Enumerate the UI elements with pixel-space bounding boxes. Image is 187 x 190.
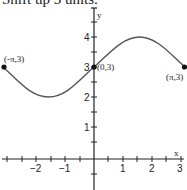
y-tick-2: 2 bbox=[84, 92, 90, 103]
x-tick-m1: −1 bbox=[59, 163, 71, 174]
x-tick-2: 2 bbox=[149, 163, 155, 174]
point-right bbox=[182, 64, 187, 69]
x-axis-label: x bbox=[174, 148, 179, 158]
point-mid-label: (0,3) bbox=[97, 62, 114, 72]
x-tick-m2: −2 bbox=[30, 163, 42, 174]
chart-plot: (-π,3) (0,3) (π,3) y x 4 3 2 1 −2 −1 1 2… bbox=[0, 0, 187, 190]
point-mid bbox=[91, 64, 96, 69]
x-tick-1: 1 bbox=[120, 163, 126, 174]
point-left bbox=[1, 64, 6, 69]
x-tick-3: 3 bbox=[177, 163, 183, 174]
y-tick-4: 4 bbox=[84, 32, 90, 43]
y-axis-label: y bbox=[97, 10, 102, 20]
y-tick-3: 3 bbox=[84, 62, 90, 73]
point-right-label: (π,3) bbox=[166, 72, 183, 82]
y-tick-1: 1 bbox=[84, 122, 90, 133]
point-left-label: (-π,3) bbox=[4, 54, 24, 64]
